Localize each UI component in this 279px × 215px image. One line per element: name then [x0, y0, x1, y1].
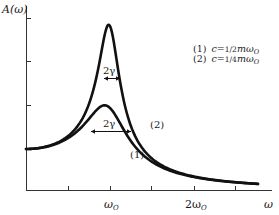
x-tick-label-omega0: ωO	[104, 198, 119, 212]
svg-text:2γ: 2γ	[103, 65, 115, 76]
legend-item-2: (2) c=1/4mωO	[193, 53, 260, 66]
gamma-width-marker-curve-1: 2γ	[91, 118, 131, 134]
legend: (1) c=1/2mωO (2) c=1/4mωO	[193, 43, 260, 66]
svg-text:2γ: 2γ	[103, 118, 115, 129]
y-axis-label: A(ω)	[1, 3, 28, 16]
curve-1-high-damping	[26, 105, 258, 184]
curve-1-tag: (1)	[130, 149, 144, 160]
x-tick-label-2omega0: 2ωO	[185, 198, 207, 212]
resonance-chart: A(ω) ωO 2ωO ω 2γ 2γ (2) (1) (1) c=1/2mωO…	[0, 0, 279, 215]
x-ticks	[69, 186, 236, 190]
x-axis-label: ω	[264, 198, 273, 211]
curve-2-tag: (2)	[150, 119, 164, 130]
